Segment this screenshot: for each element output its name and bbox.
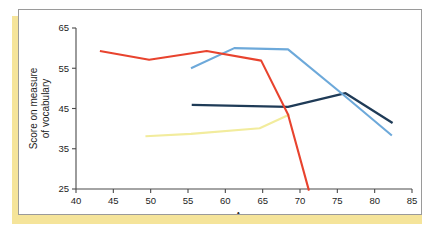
series-line-navy-cohort: [192, 93, 393, 123]
y-axis-title: Score on measureof vocabulary: [28, 67, 51, 149]
series-line-pale-yellow-cohort: [145, 115, 289, 137]
x-tick-label-45: 45: [108, 195, 119, 206]
y-tick-label-35: 35: [58, 143, 69, 154]
y-tick-label-45: 45: [58, 103, 69, 114]
x-tick-label-85: 85: [407, 195, 418, 206]
y-tick-label-25: 25: [58, 183, 69, 194]
x-tick-label-70: 70: [295, 195, 306, 206]
y-tick-label-55: 55: [58, 63, 69, 74]
figure-root: 253545556540455055606570758085AgeScore o…: [0, 0, 442, 232]
y-axis-title-line-1: Score on measure: [28, 67, 39, 149]
y-tick-label-65: 65: [58, 22, 69, 33]
accent-shadow-bottom: [12, 214, 422, 224]
x-tick-label-60: 60: [220, 195, 231, 206]
vocabulary-score-line-chart: 253545556540455055606570758085AgeScore o…: [19, 10, 421, 214]
x-tick-label-75: 75: [332, 195, 343, 206]
x-tick-label-50: 50: [145, 195, 156, 206]
y-axis-title-line-2: of vocabulary: [40, 79, 51, 138]
chart-frame: 253545556540455055606570758085AgeScore o…: [18, 9, 422, 215]
x-tick-label-65: 65: [257, 195, 268, 206]
x-tick-label-80: 80: [369, 195, 380, 206]
x-tick-label-55: 55: [183, 195, 194, 206]
x-tick-label-40: 40: [71, 195, 82, 206]
x-axis-title: Age: [235, 211, 253, 214]
series-line-light-blue-cohort: [191, 48, 392, 135]
